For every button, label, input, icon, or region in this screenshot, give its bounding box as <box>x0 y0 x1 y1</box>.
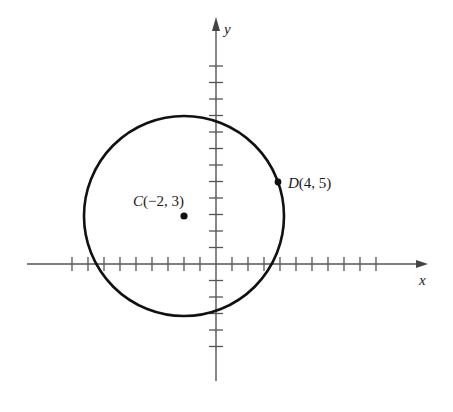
y-axis-label: y <box>222 21 231 37</box>
y-axis <box>209 17 223 381</box>
coordinate-diagram: y x C(−2, 3) D(4, 5) <box>0 0 453 412</box>
y-axis-arrow-icon <box>212 17 220 31</box>
x-axis-arrow-icon <box>416 260 428 268</box>
point-d-dot <box>275 179 282 186</box>
x-axis-label: x <box>418 272 426 288</box>
point-c-label: C(−2, 3) <box>133 193 184 210</box>
point-d-name: D <box>287 175 299 191</box>
x-axis <box>27 257 428 271</box>
point-d-coords: (4, 5) <box>299 175 332 192</box>
point-d-label: D(4, 5) <box>287 175 331 192</box>
point-c-dot <box>180 212 187 219</box>
point-c-coords: (−2, 3) <box>143 193 184 210</box>
